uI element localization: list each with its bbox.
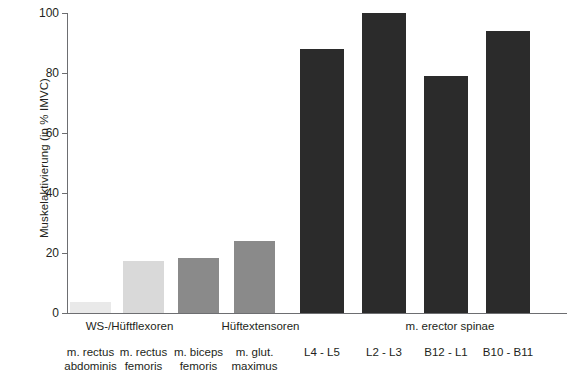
y-tick-label-80: 80 <box>46 66 59 80</box>
bar-m-biceps-femoris <box>178 258 219 314</box>
category-label-7: B10 - B11 <box>463 345 553 359</box>
plot-area: 0 20 40 60 80 100 <box>67 13 567 313</box>
y-axis-line <box>67 13 68 313</box>
group-label-hueftextensoren: Hüftextensoren <box>198 320 323 332</box>
group-label-m-erector-spinae: m. erector spinae <box>330 320 570 332</box>
bar-b12-l1 <box>424 76 468 313</box>
y-tick-label-60: 60 <box>46 126 59 140</box>
group-label-ws-hueftflexoren: WS-/Hüftflexoren <box>67 320 192 332</box>
y-tick-label-100: 100 <box>39 6 59 20</box>
x-axis-line <box>67 313 567 314</box>
y-tick-label-40: 40 <box>46 186 59 200</box>
bar-m-glut-maximus <box>234 241 275 313</box>
bar-m-rectus-abdominis <box>70 302 111 313</box>
y-tick-label-0: 0 <box>52 306 59 320</box>
bar-m-rectus-femoris <box>123 261 164 314</box>
bar-b10-b11 <box>486 31 530 313</box>
bar-l4-l5 <box>300 49 344 313</box>
bar-l2-l3 <box>362 13 406 313</box>
bar-chart: Muskelaktivierung (in % IMVC) 0 20 40 60… <box>0 0 580 390</box>
y-tick-label-20: 20 <box>46 246 59 260</box>
